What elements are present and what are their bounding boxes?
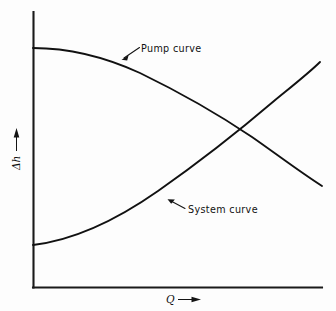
pump-curve-leader-line [124, 48, 140, 59]
y-axis-label-group: Δh [10, 128, 22, 171]
pump-curve-leader-arrowhead [122, 55, 129, 60]
up-arrow-icon [14, 128, 20, 138]
pump-curve-label: Pump curve [141, 43, 202, 54]
y-axis-label: Δh [10, 156, 22, 171]
system-curve-path [33, 62, 320, 245]
pump-curve-annotation: Pump curve [122, 43, 202, 60]
curves-group [33, 48, 322, 245]
x-axis-label-group: Q [166, 293, 201, 306]
system-curve-label: System curve [188, 204, 258, 215]
pump-curve-path [33, 48, 322, 186]
system-curve-annotation: System curve [168, 199, 258, 215]
x-axis-label: Q [166, 293, 175, 306]
chart-canvas: Pump curve System curve Δh Q [0, 0, 336, 311]
system-curve-leader-arrowhead [168, 199, 175, 204]
right-arrow-icon [192, 297, 202, 303]
pump-system-curve-figure: Pump curve System curve Δh Q [0, 0, 336, 311]
